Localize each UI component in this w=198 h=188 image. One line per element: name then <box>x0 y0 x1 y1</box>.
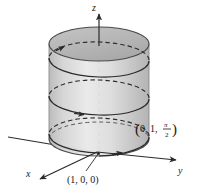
diagram-svg: z y x (1, 0, 0 <box>0 0 198 188</box>
helix-cylinder-figure: z y x (1, 0, 0 <box>0 0 198 188</box>
axis-z-label: z <box>91 2 96 13</box>
point-label-1-0-0: (1, 0, 0) <box>67 174 99 186</box>
axis-x-label: x <box>25 168 31 179</box>
paren-close: ) <box>172 121 177 138</box>
pi-numerator: π <box>164 121 168 129</box>
coords-xy: 0, 1, <box>140 123 158 134</box>
two-denominator: 2 <box>165 131 169 139</box>
axis-y-label: y <box>177 165 183 176</box>
